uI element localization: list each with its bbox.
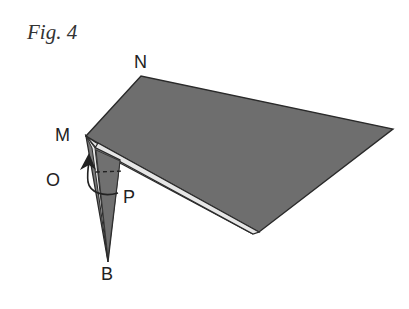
paper-main-sheet xyxy=(86,76,393,232)
origami-fold-diagram xyxy=(0,0,409,309)
